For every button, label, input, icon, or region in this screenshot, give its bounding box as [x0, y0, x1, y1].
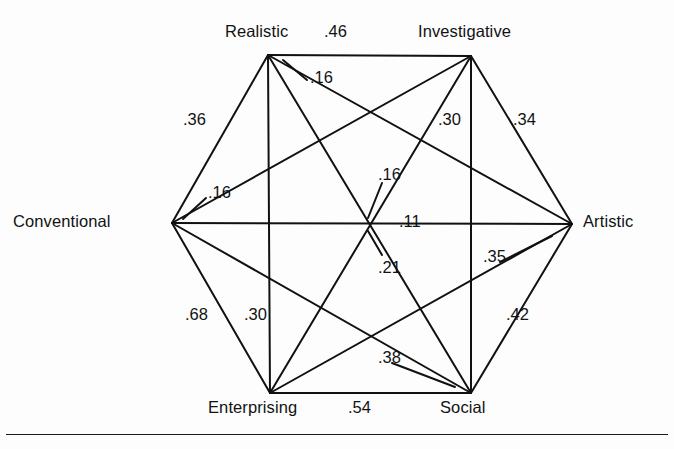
edge-value-investigative-social: .30: [438, 110, 461, 129]
leader-line-conventional-investigative: [183, 198, 206, 219]
edge-value-artistic-social: .42: [506, 305, 529, 324]
edge-line-group: [172, 55, 572, 393]
node-label-investigative: Investigative: [418, 22, 511, 41]
node-label-conventional: Conventional: [13, 212, 111, 231]
edge-value-realistic-artistic: .16: [310, 68, 333, 87]
node-label-artistic: Artistic: [583, 212, 633, 231]
riasec-hexagon-figure: RealisticInvestigativeArtisticSocialEnte…: [0, 0, 674, 449]
edge-value-artistic-enterprising: .35: [483, 247, 506, 266]
edge-line-conventional-social: [172, 223, 471, 393]
edge-value-investigative-artistic: .34: [513, 110, 536, 129]
edge-value-realistic-social: .16: [378, 165, 401, 184]
leader-line-artistic-enterprising: [500, 236, 552, 262]
edge-value-realistic-investigative: .46: [324, 22, 347, 41]
edge-value-conventional-social: .38: [378, 348, 401, 367]
edge-value-social-enterprising: .54: [348, 398, 371, 417]
edge-value-conventional-investigative: .16: [208, 183, 231, 202]
edge-value-enterprising-conventional: .68: [185, 305, 208, 324]
edge-line-investigative-artistic: [471, 56, 572, 224]
edge-value-conventional-artistic: .11: [399, 212, 421, 231]
edge-value-investigative-enterprising: .21: [378, 258, 401, 277]
node-label-realistic: Realistic: [225, 22, 288, 41]
edge-value-realistic-enterprising: .30: [244, 305, 267, 324]
leader-line-realistic-social: [368, 183, 382, 218]
leader-line-realistic-artistic: [283, 60, 307, 80]
node-label-enterprising: Enterprising: [208, 398, 297, 417]
footer-divider-rule: [6, 434, 668, 435]
node-label-social: Social: [440, 398, 486, 417]
edge-value-conventional-realistic: .36: [183, 110, 206, 129]
edge-line-realistic-investigative: [268, 55, 471, 56]
